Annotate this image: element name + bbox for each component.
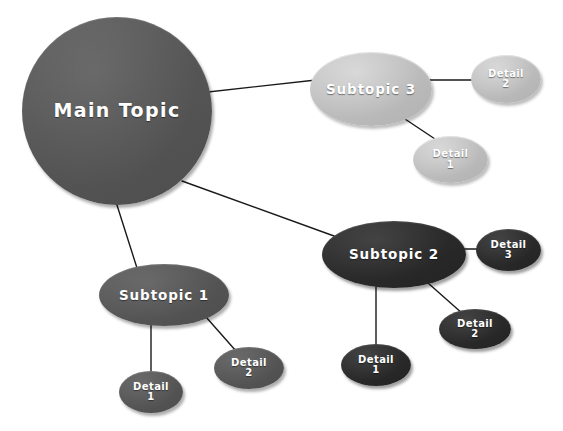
node-subtopic-2-label: Subtopic 2 [347, 247, 441, 261]
node-subtopic-2[interactable]: Subtopic 2 [322, 221, 466, 288]
node-subtopic-2-detail-1-label: Detail 1 [356, 355, 396, 376]
edge-subtopic-2-to-detail-2 [428, 283, 463, 314]
edge-root-to-subtopic-3 [208, 80, 316, 92]
edge-root-to-subtopic-2 [182, 181, 334, 236]
node-subtopic-2-detail-3-label: Detail 3 [489, 240, 529, 261]
node-subtopic-3[interactable]: Subtopic 3 [310, 52, 432, 126]
node-subtopic-1[interactable]: Subtopic 1 [99, 264, 229, 326]
node-subtopic-3-detail-2[interactable]: Detail 2 [471, 55, 541, 103]
node-subtopic-2-detail-1[interactable]: Detail 1 [341, 344, 411, 386]
node-subtopic-1-detail-1-label: Detail 1 [131, 382, 171, 403]
edge-subtopic-1-to-detail-2 [206, 317, 236, 351]
node-subtopic-1-detail-2[interactable]: Detail 2 [214, 347, 284, 389]
node-main-topic-label: Main Topic [51, 101, 182, 121]
node-subtopic-3-detail-1-label: Detail 1 [431, 149, 471, 170]
node-subtopic-3-label: Subtopic 3 [324, 82, 418, 96]
node-subtopic-2-detail-3[interactable]: Detail 3 [476, 229, 541, 271]
node-subtopic-3-detail-1[interactable]: Detail 1 [413, 136, 488, 183]
node-subtopic-2-detail-2[interactable]: Detail 2 [439, 309, 511, 349]
node-subtopic-1-detail-1[interactable]: Detail 1 [119, 371, 183, 413]
node-subtopic-3-detail-2-label: Detail 2 [486, 69, 526, 90]
node-subtopic-2-detail-2-label: Detail 2 [455, 319, 495, 340]
mind-map-canvas: Main TopicSubtopic 3Detail 2Detail 1Subt… [0, 0, 563, 431]
edge-root-to-subtopic-1 [116, 202, 137, 268]
node-subtopic-1-detail-2-label: Detail 2 [229, 358, 269, 379]
node-main-topic[interactable]: Main Topic [22, 17, 212, 205]
node-subtopic-1-label: Subtopic 1 [117, 288, 211, 302]
